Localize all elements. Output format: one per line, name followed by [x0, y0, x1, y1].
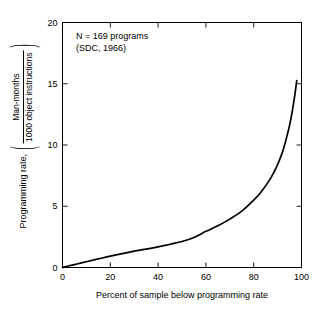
x-tick-label: 40 — [143, 272, 173, 282]
y-axis-title-prefix: Programming rate, — [19, 154, 28, 229]
plot-frame — [62, 22, 302, 268]
y-axis-title: Programming rate, ( Man-months 1000 obje… — [0, 0, 46, 270]
x-axis-title: Percent of sample below programming rate — [62, 290, 302, 300]
figure-container: N = 169 programs (SDC, 1966) 02040608010… — [0, 0, 324, 314]
x-tick-label: 100 — [287, 272, 317, 282]
y-axis-paren-close: ) — [6, 45, 39, 48]
x-tick-label: 20 — [95, 272, 125, 282]
x-tick-label: 80 — [239, 272, 269, 282]
annotation-line-2: (SDC, 1966) — [76, 42, 148, 54]
y-axis-paren-open: ( — [6, 147, 39, 150]
y-axis-title-fraction: Man-months 1000 object instructions — [12, 51, 34, 144]
y-axis-fraction-numerator: Man-months — [12, 72, 23, 123]
x-tick-label: 0 — [48, 272, 78, 282]
chart-annotation: N = 169 programs (SDC, 1966) — [76, 30, 148, 54]
y-axis-fraction-denominator: 1000 object instructions — [24, 51, 35, 144]
x-tick-label: 60 — [191, 272, 221, 282]
annotation-line-1: N = 169 programs — [76, 30, 148, 42]
